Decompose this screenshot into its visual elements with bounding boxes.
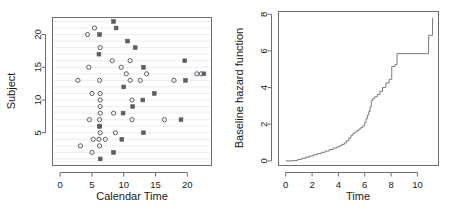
data-point-filled <box>142 131 146 135</box>
y-axis-left: 5101520 <box>32 29 46 135</box>
x-tick-label: 5 <box>89 179 94 190</box>
x-tick-label: 0 <box>57 179 62 190</box>
data-point-filled <box>112 20 116 24</box>
data-point-filled <box>121 111 125 115</box>
x-axis-title-time: Time <box>346 190 370 202</box>
x-tick-label: 2 <box>309 179 314 190</box>
data-point-filled <box>122 85 126 89</box>
x-axis-title-calendar-time: Calendar Time <box>96 190 168 202</box>
data-point-filled <box>141 98 145 102</box>
data-point-filled <box>97 52 101 56</box>
data-point-filled <box>152 92 156 96</box>
y-tick-label: 20 <box>32 29 43 40</box>
x-axis-left: 05101520 <box>57 173 192 190</box>
data-point-filled <box>202 72 206 76</box>
data-point-filled <box>126 39 130 43</box>
data-point-filled <box>98 124 102 128</box>
y-tick-label: 10 <box>32 95 43 106</box>
y-tick-label: 0 <box>258 158 269 163</box>
data-point-filled <box>98 33 102 37</box>
data-point-filled <box>183 59 187 63</box>
x-tick-label: 20 <box>182 179 193 190</box>
panel-calendar-time-subject: 05101520 5101520 Calendar Time Subject <box>0 0 230 212</box>
baseline-hazard-curve <box>286 18 433 161</box>
y-tick-label: 8 <box>258 12 269 17</box>
scatter-plot-svg: 05101520 5101520 Calendar Time Subject <box>0 0 230 212</box>
data-point-filled <box>114 26 118 30</box>
data-point-filled <box>179 118 183 122</box>
data-point-filled <box>112 151 116 155</box>
x-tick-label: 10 <box>118 179 129 190</box>
y-tick-label: 6 <box>258 48 269 53</box>
y-axis-right: 02468 <box>258 12 272 164</box>
panel-baseline-hazard: 0246810 02468 Time Baseline hazard funct… <box>230 0 460 212</box>
y-axis-title-baseline-hazard: Baseline hazard function <box>233 28 245 148</box>
x-tick-label: 8 <box>388 179 393 190</box>
x-tick-label: 10 <box>412 179 423 190</box>
x-tick-label: 15 <box>150 179 161 190</box>
x-tick-label: 6 <box>362 179 367 190</box>
data-point-filled <box>184 78 188 82</box>
y-tick-label: 4 <box>258 85 269 90</box>
plot-frame-right <box>279 12 439 166</box>
x-tick-label: 0 <box>283 179 288 190</box>
data-point-filled <box>98 157 102 161</box>
data-point-filled <box>142 65 146 69</box>
data-point-filled <box>120 137 124 141</box>
data-point-filled <box>133 46 137 50</box>
horizontal-gridlines <box>54 21 211 159</box>
x-axis-right: 0246810 <box>283 173 423 190</box>
y-axis-title-subject: Subject <box>5 73 17 110</box>
y-tick-label: 5 <box>32 130 43 135</box>
plot-frame-left <box>53 18 212 166</box>
step-plot-svg: 0246810 02468 Time Baseline hazard funct… <box>230 0 460 212</box>
data-point-filled <box>131 105 135 109</box>
x-tick-label: 4 <box>336 179 341 190</box>
y-tick-label: 2 <box>258 122 269 127</box>
figure-container: 05101520 5101520 Calendar Time Subject 0… <box>0 0 460 212</box>
y-tick-label: 15 <box>32 62 43 73</box>
